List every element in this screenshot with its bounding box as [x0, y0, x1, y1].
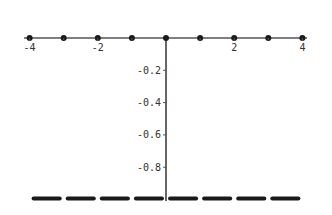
x-tick-label: 4	[299, 42, 305, 53]
data-point	[163, 35, 169, 41]
y-tick-label: -0.4	[137, 97, 161, 108]
x-tick-label: -4	[24, 42, 36, 53]
step-function-plot: -4-224 -0.2-0.4-0.6-0.8	[0, 0, 332, 215]
y-tick-label: -0.8	[137, 162, 161, 173]
y-axis-ticks: -0.2-0.4-0.6-0.8	[137, 65, 166, 173]
x-tick-label: -2	[92, 42, 104, 53]
y-tick-label: -0.2	[137, 65, 161, 76]
y-tick-label: -0.6	[137, 129, 161, 140]
axes	[24, 38, 307, 201]
x-tick-label: 2	[231, 42, 237, 53]
